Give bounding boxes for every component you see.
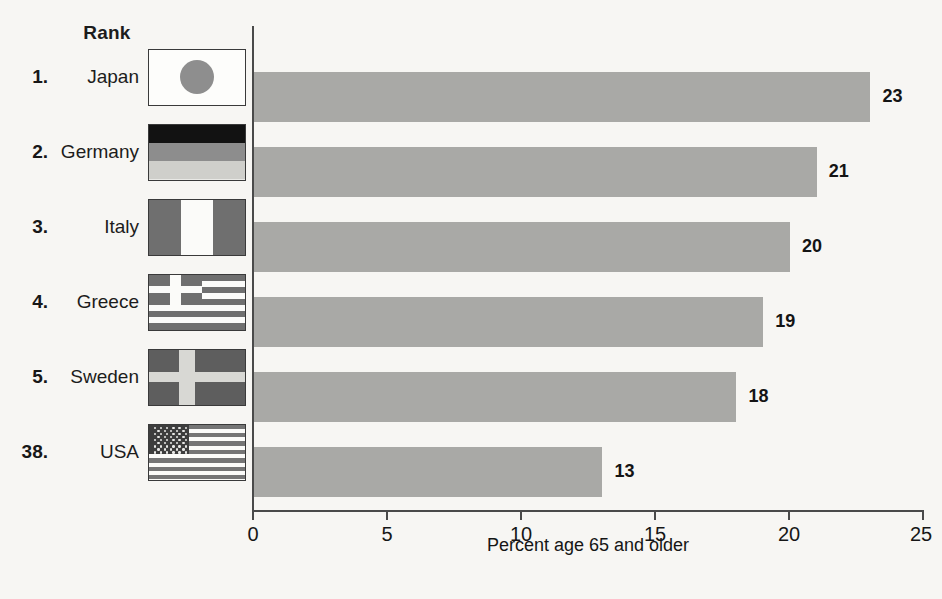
country-label: Greece	[54, 291, 148, 313]
country-label: Sweden	[54, 366, 148, 388]
x-tick	[252, 510, 254, 520]
usa-star-icon	[166, 433, 168, 435]
japan-sun-disc-icon	[180, 60, 214, 94]
usa-star-icon	[178, 439, 180, 441]
x-tick	[520, 510, 522, 520]
bar-value-label: 20	[802, 236, 822, 257]
usa-star-icon	[166, 439, 168, 441]
usa-star-icon	[164, 448, 166, 450]
legend-row-italy: 3. Italy	[0, 196, 246, 258]
usa-star-icon	[157, 448, 159, 450]
usa-star-icon	[182, 442, 184, 444]
usa-star-icon	[154, 439, 156, 441]
italy-flag-icon	[148, 199, 246, 256]
usa-star-icon	[172, 445, 174, 447]
usa-star-icon	[182, 448, 184, 450]
country-label: Japan	[54, 66, 148, 88]
legend-row-greece: 4. Greece	[0, 271, 246, 333]
bar-value-label: 13	[614, 461, 634, 482]
rank-number: 4.	[0, 291, 54, 313]
bar-sweden	[254, 372, 736, 422]
rank-number: 5.	[0, 366, 54, 388]
usa-star-icon	[172, 427, 174, 429]
usa-star-icon	[178, 445, 180, 447]
usa-star-icon	[154, 451, 156, 453]
usa-star-icon	[172, 451, 174, 453]
rank-number: 38.	[0, 441, 54, 463]
x-tick	[788, 510, 790, 520]
bar-value-label: 21	[829, 161, 849, 182]
legend-row-japan: 1. Japan	[0, 46, 246, 108]
bar-germany	[254, 147, 817, 197]
usa-star-icon	[185, 427, 187, 429]
usa-star-icon	[166, 451, 168, 453]
bar-value-label: 23	[882, 86, 902, 107]
usa-star-icon	[166, 445, 168, 447]
usa-star-icon	[170, 442, 172, 444]
usa-star-icon	[160, 439, 162, 441]
usa-star-icon	[166, 427, 168, 429]
japan-flag-icon	[148, 49, 246, 106]
usa-star-icon	[176, 442, 178, 444]
rank-column-header: Rank	[52, 22, 162, 44]
chart-page: Rank 1. Japan 2. Germany 3. Italy 4. Gre…	[0, 0, 942, 599]
usa-star-icon	[185, 433, 187, 435]
country-label: Germany	[54, 141, 148, 163]
usa-star-icon	[157, 442, 159, 444]
usa-star-icon	[170, 448, 172, 450]
usa-star-icon	[176, 448, 178, 450]
bar-italy	[254, 222, 790, 272]
usa-star-icon	[172, 433, 174, 435]
usa-star-icon	[160, 427, 162, 429]
usa-star-icon	[164, 442, 166, 444]
rank-number: 1.	[0, 66, 54, 88]
usa-star-icon	[185, 439, 187, 441]
usa-star-icon	[160, 445, 162, 447]
bar-japan	[254, 72, 870, 122]
usa-canton-icon	[149, 425, 189, 455]
usa-star-icon	[178, 427, 180, 429]
usa-star-icon	[164, 430, 166, 432]
greece-flag-icon	[148, 274, 246, 331]
usa-star-icon	[154, 433, 156, 435]
usa-star-icon	[182, 430, 184, 432]
usa-star-icon	[164, 436, 166, 438]
sweden-flag-icon	[148, 349, 246, 406]
country-label: Italy	[54, 216, 148, 238]
usa-star-icon	[176, 430, 178, 432]
usa-star-icon	[185, 445, 187, 447]
usa-star-icon	[157, 436, 159, 438]
plot-area: 23 21 20 19 18 13 0 5 10 15 20 25	[252, 26, 924, 510]
usa-star-icon	[160, 451, 162, 453]
country-label: USA	[54, 441, 148, 463]
x-tick	[654, 510, 656, 520]
usa-star-icon	[157, 430, 159, 432]
usa-star-icon	[154, 445, 156, 447]
rank-number: 2.	[0, 141, 54, 163]
x-axis-title: Percent age 65 and older	[252, 535, 924, 556]
rank-number: 3.	[0, 216, 54, 238]
bar-usa	[254, 447, 602, 497]
x-tick	[386, 510, 388, 520]
usa-star-icon	[170, 436, 172, 438]
usa-flag-icon	[148, 424, 246, 481]
legend-row-usa: 38. USA	[0, 421, 246, 483]
usa-star-icon	[172, 439, 174, 441]
bar-value-label: 18	[748, 386, 768, 407]
usa-star-icon	[185, 451, 187, 453]
legend-row-sweden: 5. Sweden	[0, 346, 246, 408]
x-tick	[922, 510, 924, 520]
usa-star-icon	[176, 436, 178, 438]
usa-star-icon	[182, 436, 184, 438]
usa-star-icon	[178, 433, 180, 435]
usa-star-icon	[160, 433, 162, 435]
bar-greece	[254, 297, 763, 347]
usa-star-icon	[178, 451, 180, 453]
bar-value-label: 19	[775, 311, 795, 332]
usa-star-icon	[170, 430, 172, 432]
germany-flag-icon	[148, 124, 246, 181]
x-axis-line	[252, 510, 924, 512]
usa-star-icon	[154, 427, 156, 429]
legend-row-germany: 2. Germany	[0, 121, 246, 183]
